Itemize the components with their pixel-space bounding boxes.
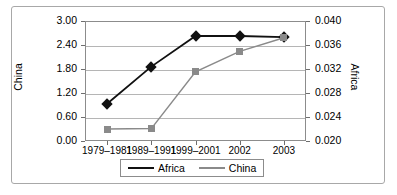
legend-swatch-africa bbox=[128, 163, 154, 173]
legend-label-china: China bbox=[229, 162, 256, 174]
series-line-china bbox=[107, 38, 284, 129]
chart-area: China Africa 0.000.601.201.802.403.000.0… bbox=[12, 7, 386, 185]
legend-swatch-china bbox=[199, 163, 225, 173]
legend-entry-africa: Africa bbox=[128, 162, 185, 174]
legend-entry-china: China bbox=[199, 162, 256, 174]
data-point-china bbox=[280, 34, 287, 41]
data-point-china bbox=[104, 126, 111, 133]
legend-label-africa: Africa bbox=[158, 162, 185, 174]
chart-legend: Africa China bbox=[120, 159, 264, 177]
data-point-china bbox=[236, 48, 243, 55]
data-point-china bbox=[148, 125, 155, 132]
figure-frame: China Africa 0.000.601.201.802.403.000.0… bbox=[11, 6, 385, 184]
data-point-china bbox=[192, 68, 199, 75]
